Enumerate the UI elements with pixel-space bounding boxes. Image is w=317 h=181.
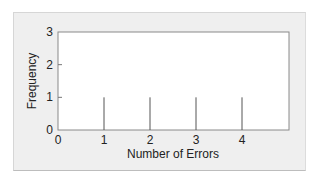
y-tick-label: 0 — [46, 123, 53, 137]
x-tick-label: 2 — [147, 133, 154, 147]
y-tick-label: 1 — [46, 90, 53, 104]
x-tick-label: 4 — [239, 133, 246, 147]
x-axis-label: Number of Errors — [127, 147, 219, 161]
x-tick-label: 1 — [101, 133, 108, 147]
y-tick-label: 3 — [46, 25, 53, 39]
x-tick-label: 0 — [55, 133, 62, 147]
y-axis-label: Frequency — [25, 53, 39, 110]
x-axis: 01234 — [55, 133, 246, 147]
chart: 0123 01234 Number of Errors Frequency — [0, 0, 317, 181]
x-tick-label: 3 — [193, 133, 200, 147]
y-tick-label: 2 — [46, 58, 53, 72]
plot-area — [58, 32, 289, 130]
